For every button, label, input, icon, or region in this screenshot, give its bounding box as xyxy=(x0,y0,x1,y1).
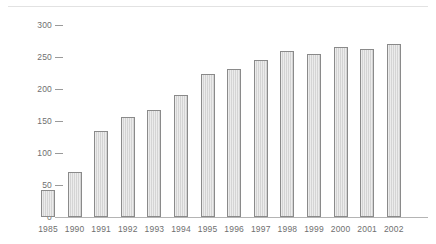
y-axis-tick-mark xyxy=(55,57,63,58)
bar-1995 xyxy=(201,74,215,217)
y-axis-tick-label: 100 xyxy=(10,147,52,159)
y-axis-tick-label: 250 xyxy=(10,51,52,63)
x-axis-tick-label: 2002 xyxy=(374,224,414,234)
bar-1998 xyxy=(280,51,294,217)
y-axis-tick-label: 300 xyxy=(10,19,52,31)
bar-1997 xyxy=(254,60,268,217)
bar-2002 xyxy=(387,44,401,217)
y-axis-tick-label: 150 xyxy=(10,115,52,127)
bar-1993 xyxy=(147,110,161,217)
bar-1996 xyxy=(227,69,241,217)
y-axis-tick-mark xyxy=(55,185,63,186)
bar-1999 xyxy=(307,54,321,217)
bar-1990 xyxy=(68,172,82,217)
axis-baseline xyxy=(55,217,428,218)
y-axis-tick-mark xyxy=(55,25,63,26)
bar-1991 xyxy=(94,131,108,217)
bar-1994 xyxy=(174,95,188,217)
plot-area: 050100150200250300 198519901991199219931… xyxy=(0,0,436,244)
bar-2001 xyxy=(360,49,374,217)
y-axis-tick-mark xyxy=(55,89,63,90)
y-axis-tick-mark xyxy=(55,121,63,122)
y-axis-tick-mark xyxy=(55,153,63,154)
bar-1992 xyxy=(121,117,135,217)
bar-2000 xyxy=(334,47,348,217)
bar-1985 xyxy=(41,190,55,217)
y-axis-tick-label: 200 xyxy=(10,83,52,95)
bar-chart-figure: 050100150200250300 198519901991199219931… xyxy=(0,0,436,244)
